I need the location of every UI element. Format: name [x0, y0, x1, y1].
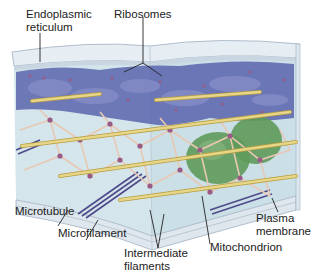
label-microtubule: Microtubule	[15, 205, 74, 218]
label-ribosomes: Ribosomes	[114, 8, 172, 21]
label-mitochondrion: Mitochondrion	[210, 241, 282, 254]
label-intermediate-line2: filaments	[124, 260, 188, 273]
label-intermediate-filaments: Intermediate filaments	[124, 247, 188, 273]
label-endoplasmic-reticulum: Endoplasmic reticulum	[26, 8, 92, 34]
label-intermediate-line1: Intermediate	[124, 247, 188, 260]
label-microfilament: Microfilament	[58, 227, 126, 240]
label-er-line2: reticulum	[26, 21, 92, 34]
label-plasma-line1: Plasma	[256, 212, 311, 225]
label-plasma-line2: membrane	[256, 225, 311, 238]
label-plasma-membrane: Plasma membrane	[256, 212, 311, 238]
label-er-line1: Endoplasmic	[26, 8, 92, 21]
